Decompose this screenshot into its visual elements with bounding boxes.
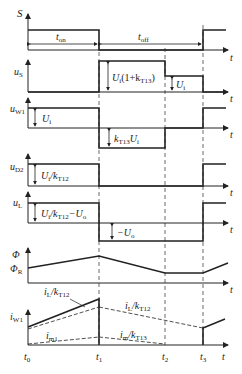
toff-sub: off [141,36,149,44]
label-uS-ann1: Ui(1+kT13) [112,73,155,85]
label-uW1: uW1 [10,104,25,116]
label-iW1: iW1 [10,312,23,324]
label-t3: t3 [200,352,206,364]
label-S: S [17,8,23,19]
label-iL-kT12-1: iL/kT12 [44,287,70,299]
label-uL-ann1: Ui/kT12−Uo [41,209,86,221]
label-uD2-ann: Ui/kT12 [41,171,69,183]
label-t-iW1: t [222,352,225,362]
label-t1: t1 [96,352,102,364]
label-uW1-ann1: Ui [42,114,51,126]
label-iL-kT12-2: iL/kT12 [125,301,151,313]
label-uS-ann2: Ui [176,80,185,92]
label-uW1-ann2: kT13Ui [114,134,139,146]
label-t2: t2 [162,352,168,364]
waveform-phi [28,248,228,283]
ton-sub: on [59,36,66,44]
label-im-kT13: im/kT13 [120,330,147,342]
label-t-S: t [230,53,233,63]
timing-diagram [0,0,242,374]
label-uS: uS [14,67,23,79]
label-uL-ann2: −Uo [117,228,134,240]
uS-sub: S [19,71,23,79]
label-phiR: ΦR [10,264,22,276]
label-t0: t0 [24,352,30,364]
label-phi: Φ [12,250,20,260]
label-uL: uL [13,198,22,210]
label-t-uL: t [230,225,233,235]
label-t-uD2: t [230,188,233,198]
label-im1: im1 [46,331,58,343]
label-t-uW1: t [230,130,233,140]
label-toff: toff [138,32,149,44]
label-uD2: uD2 [10,162,24,174]
label-ton: ton [56,32,66,44]
label-t-uS: t [230,94,233,104]
label-t-phi: t [230,285,233,295]
